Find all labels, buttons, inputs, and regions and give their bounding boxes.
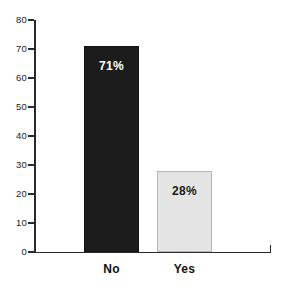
- y-axis-line: [34, 20, 36, 253]
- y-axis-tick: [28, 193, 34, 195]
- y-axis-tick-label: 80: [0, 15, 27, 25]
- x-axis-category-label-yes: Yes: [157, 262, 212, 276]
- x-axis-category-label-no: No: [84, 262, 139, 276]
- bar-value-label: 28%: [158, 184, 211, 198]
- y-axis-tick: [28, 135, 34, 137]
- y-axis-tick-label: 50: [0, 102, 27, 112]
- y-axis-tick-label: 30: [0, 160, 27, 170]
- bar-yes[interactable]: 28%: [157, 171, 212, 252]
- y-axis-tick-label: 60: [0, 73, 27, 83]
- y-axis-tick-label: 70: [0, 44, 27, 54]
- y-axis-tick-label: 20: [0, 189, 27, 199]
- x-axis-end-tick: [270, 245, 272, 252]
- y-axis-tick: [28, 251, 34, 253]
- y-axis-tick-label: 10: [0, 218, 27, 228]
- y-axis-tick: [28, 77, 34, 79]
- y-axis-tick: [28, 222, 34, 224]
- bar-value-label: 71%: [85, 59, 138, 73]
- bar-no[interactable]: 71%: [84, 46, 139, 252]
- y-axis-tick: [28, 106, 34, 108]
- y-axis-tick-label: 0: [0, 247, 27, 257]
- y-axis-tick: [28, 48, 34, 50]
- y-axis-tick: [28, 19, 34, 21]
- y-axis-tick-label: 40: [0, 131, 27, 141]
- x-axis-line: [34, 252, 271, 254]
- bar-chart: 01020304050607080 71%28% NoYes: [0, 0, 281, 288]
- y-axis-tick: [28, 164, 34, 166]
